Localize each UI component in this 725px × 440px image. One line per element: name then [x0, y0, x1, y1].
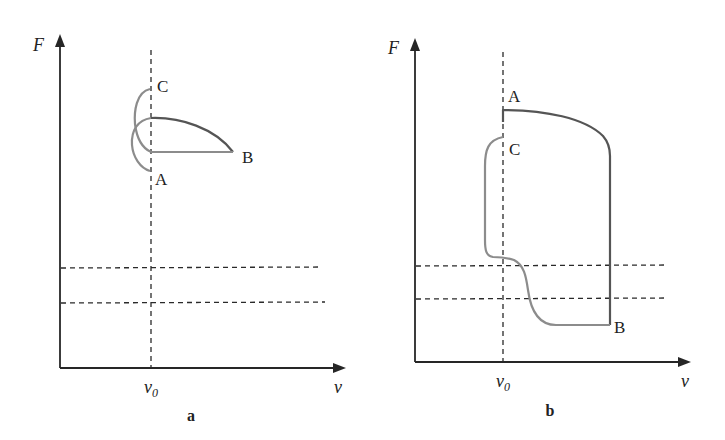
- y-axis-label-b: F: [387, 38, 400, 58]
- threshold-line-upper-a: [61, 267, 320, 268]
- v0-tick-label-a: v0: [144, 377, 158, 400]
- panel-a: F v v0 C A B a: [32, 34, 346, 424]
- y-axis-arrow-icon: [410, 38, 420, 51]
- point-label-a-b: A: [508, 87, 521, 106]
- curve-b-to-c-b: [485, 137, 610, 325]
- threshold-line-lower-b: [416, 298, 667, 299]
- panel-caption-a: a: [187, 407, 195, 424]
- x-axis-label-b: v: [681, 371, 689, 391]
- point-label-b-b: B: [614, 318, 625, 337]
- x-axis-arrow-icon: [678, 357, 691, 367]
- curve-top-to-b-a: [151, 118, 233, 152]
- x-axis-label-a: v: [334, 377, 342, 397]
- point-label-c-b: C: [509, 140, 520, 159]
- threshold-line-lower-a: [61, 302, 325, 303]
- x-axis-arrow-icon: [333, 363, 346, 373]
- y-axis-label-a: F: [32, 35, 45, 55]
- figure: F v v0 C A B a F v v0 A C B b: [0, 0, 725, 440]
- panel-caption-b: b: [546, 402, 555, 419]
- point-label-a-a: A: [155, 170, 168, 189]
- threshold-line-upper-b: [416, 265, 667, 266]
- panel-b: F v v0 A C B b: [387, 38, 691, 419]
- point-label-b-a: B: [242, 148, 253, 167]
- point-label-c-a: C: [157, 77, 168, 96]
- y-axis-arrow-icon: [55, 34, 65, 47]
- v0-tick-label-b: v0: [496, 371, 510, 394]
